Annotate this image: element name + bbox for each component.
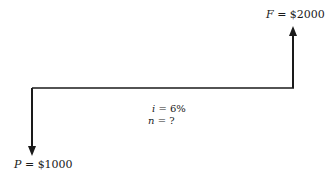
cash-flow-diagram bbox=[0, 0, 331, 176]
present-value-label: P = $1000 bbox=[14, 159, 73, 170]
present-value-arrow-down bbox=[28, 88, 36, 156]
interest-rate-value: 6% bbox=[170, 103, 186, 114]
future-value-amount: $2000 bbox=[290, 8, 325, 21]
periods-value: ? bbox=[169, 115, 174, 126]
future-value-label: F = $2000 bbox=[266, 9, 325, 20]
future-value-symbol: F bbox=[266, 8, 274, 21]
future-value-arrow-up bbox=[289, 26, 297, 88]
interest-rate-label: i = 6% bbox=[152, 104, 186, 114]
present-value-amount: $1000 bbox=[38, 158, 73, 171]
periods-label: n = ? bbox=[148, 116, 175, 126]
